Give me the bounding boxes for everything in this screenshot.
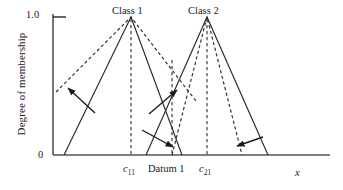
x-tick-label-datum1: Datum 1	[148, 163, 184, 174]
fuzzy-membership-figure: Degree of membership 1.0 0 Class 1 Class…	[0, 0, 343, 190]
class-1-label: Class 1	[112, 5, 143, 16]
x-axis-title: x	[295, 167, 300, 178]
axis-lines	[53, 14, 330, 155]
c11-subscript: 11	[128, 168, 135, 177]
vertical-guides	[131, 19, 207, 155]
c21-subscript: 21	[204, 168, 212, 177]
arrow-class1-right-foot-expand	[142, 130, 173, 147]
arrow-class1-right-expand	[149, 90, 177, 114]
class-2-label: Class 2	[188, 5, 219, 16]
plot-area	[0, 0, 343, 190]
y-tick-label-zero: 0	[38, 149, 43, 160]
y-tick-label-one: 1.0	[26, 9, 39, 20]
class1-solid-membership	[64, 17, 182, 155]
x-tick-label-c21: c21	[199, 163, 211, 177]
adaptation-arrows	[68, 88, 263, 147]
y-axis-title: Degree of membership	[15, 19, 27, 149]
arrow-class2-right-contract	[237, 137, 263, 146]
x-tick-label-c11: c11	[123, 163, 135, 177]
